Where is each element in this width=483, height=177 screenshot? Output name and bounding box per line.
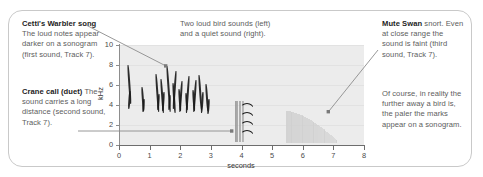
- sonogram-figure: Cetti's Warbler song The loud notes appe…: [0, 0, 483, 177]
- callout-mute-swan-title: Mute Swan: [382, 19, 422, 28]
- callout-paler-marks-note: Of course, in reality the further away a…: [382, 89, 468, 130]
- y-axis-tick: [116, 125, 119, 126]
- y-axis-title: kHz: [96, 82, 105, 106]
- x-axis-tick-label: 1: [143, 151, 157, 160]
- x-axis-tick-label: 0: [112, 151, 126, 160]
- callout-cettis-warbler: Cetti's Warbler song The loud notes appe…: [22, 19, 106, 60]
- x-axis-tick: [150, 146, 151, 150]
- x-axis-tick-label: 5: [265, 151, 279, 160]
- y-axis-tick: [116, 45, 119, 46]
- y-axis-tick-label: 0: [99, 140, 113, 149]
- y-axis-tick-label: 2: [99, 120, 113, 129]
- x-axis-tick: [211, 146, 212, 150]
- y-axis-tick: [116, 65, 119, 66]
- y-axis-line: [119, 44, 120, 146]
- x-axis-tick: [303, 146, 304, 150]
- y-axis-tick: [116, 105, 119, 106]
- x-axis-tick-label: 7: [326, 151, 340, 160]
- x-axis-tick-label: 4: [235, 151, 249, 160]
- x-axis-tick: [272, 146, 273, 150]
- callout-crane-call-title: Crane call (duet): [22, 87, 82, 96]
- sonogram-plot-area: [119, 45, 364, 145]
- x-axis-tick-label: 2: [173, 151, 187, 160]
- callout-top-line1: Two loud bird sounds (left): [180, 19, 308, 29]
- x-axis-tick-label: 3: [204, 151, 218, 160]
- x-axis-tick: [180, 146, 181, 150]
- callout-cettis-warbler-body: The loud notes appear darker on a sonogr…: [22, 29, 99, 58]
- callout-cettis-warbler-title: Cetti's Warbler song: [22, 19, 96, 28]
- gridline: [119, 45, 364, 46]
- y-axis-tick-label: 8: [99, 60, 113, 69]
- callout-top-line2: and a quiet sound (right).: [180, 29, 308, 39]
- x-axis-tick: [119, 146, 120, 150]
- x-axis-tick: [364, 146, 365, 150]
- callout-top-summary: Two loud bird sounds (left) and a quiet …: [180, 19, 308, 39]
- sonogram-mark-swan-noise: [336, 140, 337, 143]
- gridline: [119, 65, 364, 66]
- y-axis-tick: [116, 85, 119, 86]
- callout-paler-marks-note-body: Of course, in reality the further away a…: [382, 89, 462, 129]
- x-axis-tick-label: 6: [296, 151, 310, 160]
- x-axis-tick-label: 8: [357, 151, 371, 160]
- x-axis-tick: [242, 146, 243, 150]
- x-axis-tick: [333, 146, 334, 150]
- x-axis-title: seconds: [211, 161, 271, 170]
- callout-crane-call: Crane call (duet) The sound carries a lo…: [22, 87, 106, 128]
- y-axis-tick-label: 10: [99, 40, 113, 49]
- callout-mute-swan: Mute Swan snort. Even at close range the…: [382, 19, 466, 60]
